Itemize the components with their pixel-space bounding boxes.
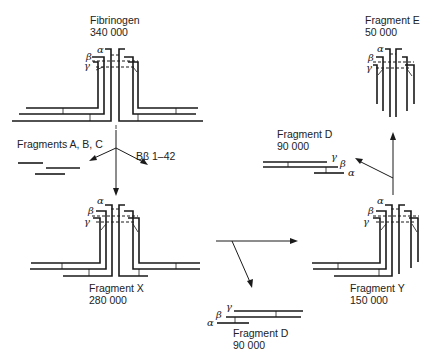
fragment-y-molecule: α β γ Fragment Y 150 000 [312,195,419,306]
fragment-e-mass: 50 000 [365,26,397,38]
gamma-label: γ [366,62,372,73]
beta-label: β [87,205,94,216]
fibrinogen-mass: 340 000 [90,26,128,38]
fragment-d-top: Fragment D 90 000 γ β α [263,128,355,178]
alpha-label: α [97,44,104,55]
fragment-y-label: Fragment Y [350,282,405,294]
bbeta-peptide-label: Bβ 1–42 [136,150,175,162]
fragment-d-top-label: Fragment D [277,128,333,140]
fibrinogen-degradation-diagram: Fibrinogen 340 000 α β γ Fragments A, B,… [0,0,434,362]
fragment-d-bottom-mass: 90 000 [233,339,265,351]
beta-label: β [367,205,374,216]
fragment-d-bottom-label: Fragment D [233,327,289,339]
fibrinogen-label: Fibrinogen [90,14,140,26]
fragment-x-molecule: α β γ Fragment X 280 000 [30,195,200,306]
fragment-e-label: Fragment E [365,14,420,26]
alpha-label: α [348,167,355,178]
fragments-abc-label: Fragments A, B, C [17,138,103,150]
fragments-abc-lines [18,163,80,174]
alpha-label: α [377,195,384,206]
arrow-x-to-y [216,238,298,288]
alpha-label: α [377,43,384,54]
fragment-y-mass: 150 000 [350,294,388,306]
fibrinogen-molecule: Fibrinogen 340 000 α β γ [12,14,203,129]
fragment-d-bottom: γ β α Fragment D 90 000 [207,301,303,351]
fragment-x-mass: 280 000 [89,294,127,306]
alpha-label: α [207,317,214,328]
gamma-label: γ [84,60,90,71]
beta-label: β [215,309,222,320]
gamma-label: γ [363,216,369,227]
arrow-y-to-e [355,132,396,195]
alpha-label: α [97,195,104,206]
gamma-label: γ [84,216,90,227]
gamma-label: γ [226,301,232,312]
fragment-x-label: Fragment X [89,282,144,294]
gamma-label: γ [331,151,337,162]
fragment-e-molecule: Fragment E 50 000 α β γ [365,14,420,117]
fragment-d-top-mass: 90 000 [277,140,309,152]
beta-label: β [339,158,346,169]
